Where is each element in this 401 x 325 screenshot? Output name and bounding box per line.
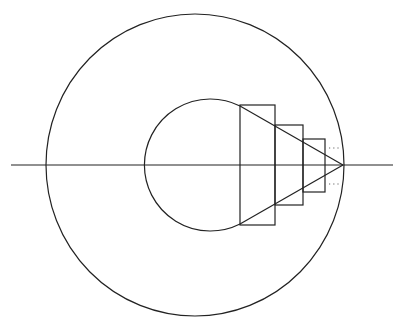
lower-tangent-line bbox=[240, 165, 343, 224]
upper-tangent-line bbox=[240, 106, 343, 165]
geometric-diagram bbox=[0, 0, 401, 325]
